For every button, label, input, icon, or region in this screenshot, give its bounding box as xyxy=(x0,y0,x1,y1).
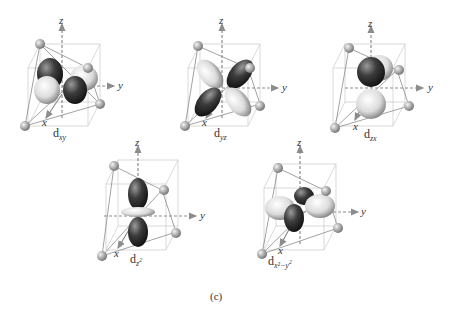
figure-caption: (c) xyxy=(210,290,222,302)
panel-dyz: z y x xyxy=(160,0,310,140)
svg-text:y: y xyxy=(427,81,433,93)
dx2y2-orbital-diagram: z y x xyxy=(248,132,398,272)
panel-dzx: z y x xyxy=(305,0,452,140)
dxy-orbital-diagram: z y x xyxy=(0,0,150,140)
svg-text:z: z xyxy=(367,17,373,29)
x-axis-label: x xyxy=(41,116,47,128)
y-axis-label: y xyxy=(117,79,123,91)
svg-text:y: y xyxy=(199,209,205,221)
svg-text:z: z xyxy=(296,136,302,148)
svg-text:y: y xyxy=(360,205,366,217)
label-dxy: dxy xyxy=(53,126,66,142)
svg-text:z: z xyxy=(134,136,140,148)
dz2-orbital-diagram: z y x xyxy=(92,132,242,272)
panel-dz2: z y x xyxy=(92,132,242,272)
svg-text:x: x xyxy=(352,120,358,132)
dyz-orbital-diagram: z y x xyxy=(160,0,310,140)
label-dx2y2: dx²−y2 xyxy=(268,254,292,270)
panel-dx2y2: z y x xyxy=(248,132,398,272)
svg-text:y: y xyxy=(281,81,287,93)
z-axis-label: z xyxy=(58,14,64,26)
svg-text:z: z xyxy=(218,14,224,26)
dzx-orbital-diagram: z y x xyxy=(305,0,452,140)
svg-text:x: x xyxy=(113,247,119,259)
svg-text:x: x xyxy=(201,116,207,128)
panel-dxy: z y x xyxy=(0,0,150,140)
label-dz2: dz2 xyxy=(130,252,142,268)
